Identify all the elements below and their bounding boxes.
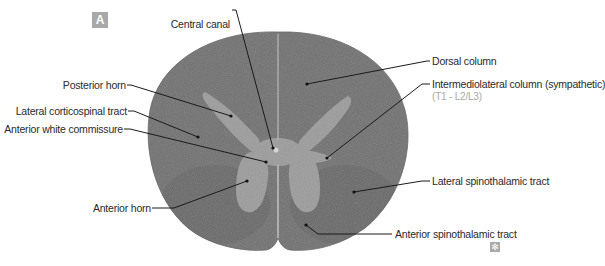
label-anterior-white-commissure: Anterior white commissure: [4, 123, 123, 135]
label-central-canal: Central canal: [171, 18, 230, 30]
label-lateral-corticospinal-tract: Lateral corticospinal tract: [16, 105, 127, 117]
label-lateral-spinothalamic-tract: Lateral spinothalamic tract: [432, 175, 549, 187]
panel-label-badge: A: [92, 12, 108, 28]
label-intermediolateral-column: Intermediolateral column (sympathetic): [432, 78, 605, 90]
label-posterior-horn: Posterior horn: [63, 79, 126, 91]
white-matter: [140, 28, 420, 258]
label-intermediolateral-levels: (T1 - L2/L3): [432, 91, 482, 103]
corner-asterisk-icon: ✻: [490, 242, 500, 252]
label-anterior-spinothalamic-tract: Anterior spinothalamic tract: [395, 228, 517, 240]
label-dorsal-column: Dorsal column: [432, 55, 497, 67]
label-anterior-horn: Anterior horn: [93, 202, 151, 214]
